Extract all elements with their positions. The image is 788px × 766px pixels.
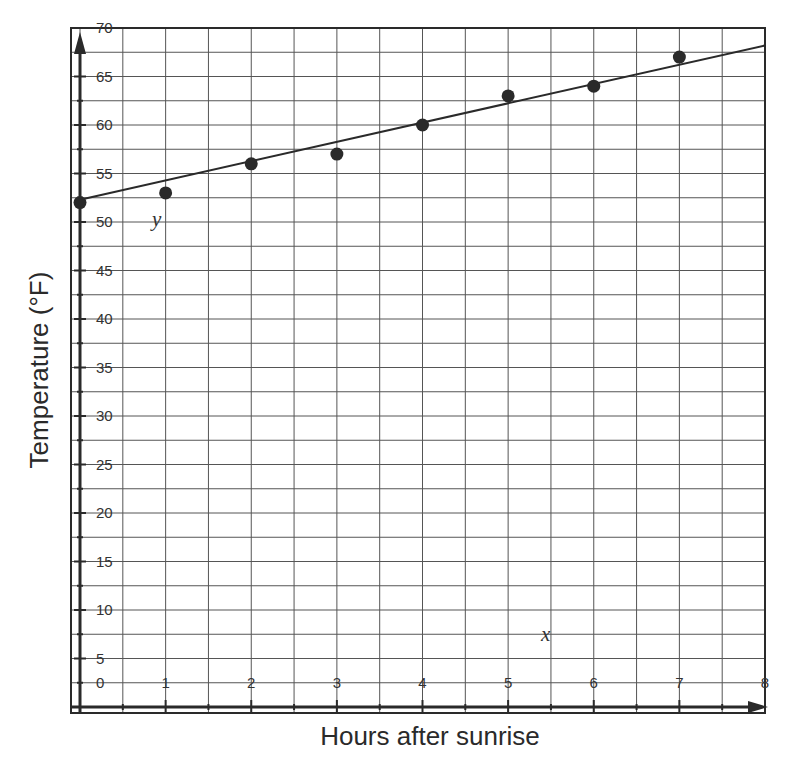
- x-tick-label: 7: [675, 674, 683, 691]
- data-point: [74, 196, 87, 209]
- y-tick-label: 45: [96, 262, 113, 279]
- y-tick-label: 40: [96, 310, 113, 327]
- x-tick-label: 4: [418, 674, 426, 691]
- chart: 051015202530354045505560657012345678 y x…: [0, 0, 788, 766]
- y-tick-label: 50: [96, 213, 113, 230]
- x-tick-label: 8: [761, 674, 769, 691]
- y-variable-label: y: [150, 207, 162, 231]
- y-tick-label: 10: [96, 601, 113, 618]
- x-tick-label: 2: [247, 674, 255, 691]
- y-tick-label: 20: [96, 504, 113, 521]
- data-point: [159, 186, 172, 199]
- y-tick-label: 55: [96, 165, 113, 182]
- data-point: [502, 89, 515, 102]
- y-tick-label: 0: [96, 674, 104, 691]
- data-point: [673, 51, 686, 64]
- grid-lines: [71, 28, 765, 713]
- y-tick-label: 5: [96, 650, 104, 667]
- data-point: [245, 157, 258, 170]
- y-tick-label: 35: [96, 359, 113, 376]
- y-tick-label: 70: [96, 19, 113, 36]
- y-axis-title: Temperature (°F): [24, 272, 54, 469]
- x-tick-label: 1: [161, 674, 169, 691]
- y-tick-label: 60: [96, 116, 113, 133]
- y-tick-label: 30: [96, 407, 113, 424]
- y-tick-label: 25: [96, 456, 113, 473]
- data-point: [416, 119, 429, 132]
- x-tick-label: 3: [333, 674, 341, 691]
- x-variable-label: x: [540, 622, 551, 646]
- y-tick-label: 15: [96, 553, 113, 570]
- data-point: [330, 148, 343, 161]
- data-point: [587, 80, 600, 93]
- x-tick-label: 6: [590, 674, 598, 691]
- x-axis-title: Hours after sunrise: [320, 721, 540, 751]
- axes: [71, 32, 768, 714]
- y-axis-arrow-icon: [74, 32, 86, 54]
- x-tick-label: 5: [504, 674, 512, 691]
- y-tick-label: 65: [96, 68, 113, 85]
